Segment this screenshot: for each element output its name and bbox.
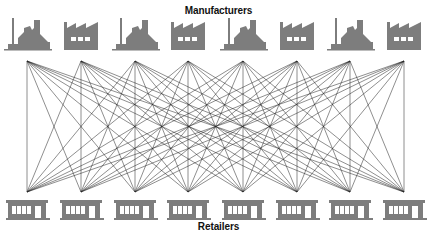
manufacturer-icons xyxy=(4,18,421,51)
store-icon xyxy=(276,200,320,220)
store-icon xyxy=(383,200,427,220)
sawtooth-factory-icon xyxy=(64,22,98,50)
old-factory-icon xyxy=(4,18,52,51)
old-factory-icon xyxy=(327,18,375,51)
store-icon xyxy=(114,200,158,220)
sawtooth-factory-icon xyxy=(171,22,205,50)
old-factory-icon xyxy=(112,18,160,51)
store-icon xyxy=(6,200,50,220)
store-icon xyxy=(60,200,104,220)
connection-lines xyxy=(27,61,404,192)
sawtooth-factory-icon xyxy=(280,22,314,50)
store-icon xyxy=(167,200,211,220)
store-icon xyxy=(222,200,266,220)
old-factory-icon xyxy=(220,18,268,51)
retailers-label: Retailers xyxy=(0,221,437,232)
sawtooth-factory-icon xyxy=(387,22,421,50)
retailer-icons xyxy=(6,200,427,220)
supply-network-diagram xyxy=(0,0,437,241)
store-icon xyxy=(329,200,373,220)
